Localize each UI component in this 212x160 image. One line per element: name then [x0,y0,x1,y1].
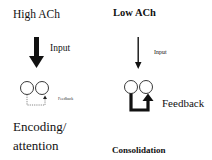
left-input-label: Input [50,44,70,54]
strong-feedback-arrow-icon [131,94,154,111]
left-feedback-label: Feedback [58,97,73,101]
diagram-canvas [0,0,212,160]
weak-feedback-arrow-icon [27,95,47,106]
left-node-circle-2 [36,82,49,95]
right-input-label: Input [154,49,167,55]
left-node-circle-1 [21,82,34,95]
left-caption-line2: attention [13,139,59,152]
right-node-circle-2 [140,81,153,94]
thin-input-arrow-icon [135,37,142,69]
left-panel-title: High ACh [13,9,60,21]
right-panel-title: Low ACh [113,8,156,19]
right-caption: Consolidation [112,146,166,155]
right-feedback-label: Feedback [162,98,204,109]
thick-input-arrow-icon [29,37,44,68]
left-caption-line1: Encoding/ [13,120,66,133]
right-node-circle-1 [125,81,138,94]
